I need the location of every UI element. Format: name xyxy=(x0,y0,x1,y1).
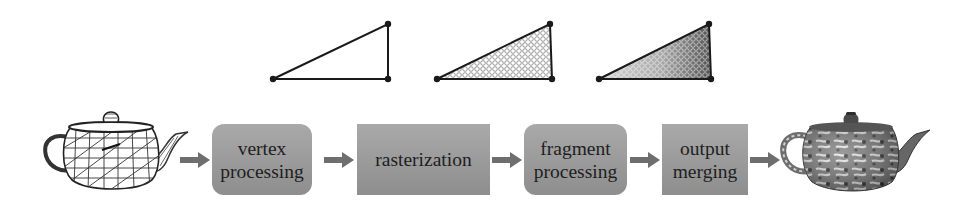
arrow-icon xyxy=(324,150,356,170)
textured-teapot-icon xyxy=(778,110,938,200)
stage-vertex-processing: vertex processing xyxy=(212,124,312,195)
stage-label-line: fragment xyxy=(534,137,617,160)
stage-label-line: processing xyxy=(220,160,303,183)
arrow-icon xyxy=(180,150,212,170)
stage-rasterization: rasterization xyxy=(357,124,490,195)
arrow-icon xyxy=(630,150,662,170)
stage-output-merging: output merging xyxy=(662,124,748,195)
arrow-icon xyxy=(750,150,782,170)
stage-label-line: processing xyxy=(534,160,617,183)
stage-label-line: rasterization xyxy=(375,148,471,171)
stage-fragment-processing: fragment processing xyxy=(524,124,627,195)
stage-label-line: merging xyxy=(673,160,738,183)
stage-label-line: output xyxy=(673,137,738,160)
stage-label-line: vertex xyxy=(220,137,303,160)
arrow-icon xyxy=(492,150,524,170)
wireframe-teapot-icon xyxy=(40,110,200,200)
